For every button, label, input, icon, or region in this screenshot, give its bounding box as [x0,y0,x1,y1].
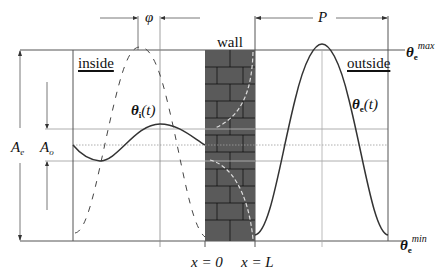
x-l-label: x = L [241,255,274,270]
brick-wall [205,50,255,241]
outside-temperature-curve [255,44,388,235]
inside-temperature-curve [73,124,205,161]
outside-label: outside [347,56,390,71]
inside-label: inside [78,56,114,71]
theta-inside-label: θi(t) [131,103,155,118]
x-zero-label: x = 0 [191,255,223,270]
wall-label: wall [217,35,243,50]
theta-max-label: θemax [406,45,434,60]
theta-outside-label: θe(t) [352,97,378,112]
inside-dashed-outside-curve [75,47,205,237]
phi-label: φ [145,10,153,25]
amplitude-outside-label: Ae [11,140,24,155]
amplitude-inside-label: Ao [40,140,54,155]
theta-min-label: θemin [400,238,427,253]
period-label: P [318,10,327,25]
